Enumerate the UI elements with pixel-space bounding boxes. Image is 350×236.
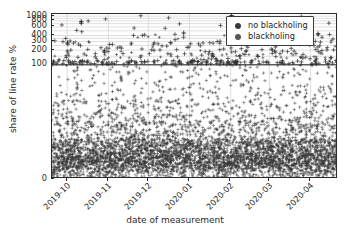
x-tickmark-2019-12: [147, 178, 148, 181]
legend-item-blackholing: blackholing: [231, 31, 308, 42]
y-tick-400: 400: [31, 30, 47, 38]
y-tickmark-300: [51, 40, 54, 41]
scatter-chart-figure: share of line rate % 0100200300400600800…: [0, 0, 350, 236]
y-tickmark-1000: [51, 15, 54, 16]
y-tickmark-200: [51, 49, 54, 50]
y-tick-100: 100: [31, 59, 47, 67]
x-axis-label: date of measurement: [0, 215, 350, 225]
y-tickmark-0: [51, 178, 54, 179]
x-tick-2020-02: 2020-02: [205, 181, 235, 211]
x-tickmark-2020-01: [188, 178, 189, 181]
legend-marker-no-blackholing-icon: [235, 23, 241, 29]
legend-marker-blackholing-icon: [235, 34, 241, 40]
x-tickmark-2020-04: [309, 178, 310, 181]
x-tickmark-2019-11: [107, 178, 108, 181]
x-tick-2020-01: 2020-01: [164, 181, 194, 211]
y-tick-1000: 1000: [26, 10, 47, 18]
y-axis-tick-labels: 01002003004006008001000: [0, 13, 47, 178]
x-tick-2019-10: 2019-10: [41, 181, 71, 211]
x-tick-2020-03: 2020-03: [244, 181, 274, 211]
x-tickmark-2020-02: [229, 178, 230, 181]
chart-legend: no blackholing blackholing: [226, 16, 314, 46]
y-tickmark-600: [51, 25, 54, 26]
x-tickmark-2020-03: [268, 178, 269, 181]
x-tick-2019-12: 2019-12: [123, 181, 153, 211]
y-tickmark-100: [51, 63, 54, 64]
y-tick-200: 200: [31, 45, 47, 53]
x-tick-2020-04: 2020-04: [285, 181, 315, 211]
legend-label-no-blackholing: no blackholing: [248, 21, 308, 29]
x-tickmark-2019-10: [66, 178, 67, 181]
legend-item-no-blackholing: no blackholing: [231, 20, 308, 31]
x-tick-2019-11: 2019-11: [83, 181, 113, 211]
legend-label-blackholing: blackholing: [248, 32, 295, 40]
y-tickmark-400: [51, 34, 54, 35]
y-tickmark-800: [51, 19, 54, 20]
x-axis-tick-labels: 2019-102019-112019-122020-012020-022020-…: [0, 178, 350, 236]
